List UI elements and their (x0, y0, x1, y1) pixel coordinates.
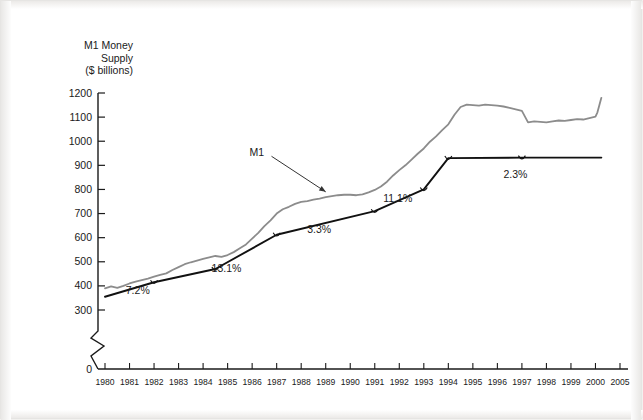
m1-callout-arrow (272, 156, 326, 192)
y-tick-label: 1100 (48, 111, 92, 123)
y-tick-label: 600 (48, 231, 92, 243)
chart-canvas (1, 1, 643, 420)
annotation-growth-rate-3: 3.3% (307, 223, 331, 235)
annotation-growth-rate-1: 7.2% (126, 284, 150, 296)
annotation-growth-rate-5: 2.3% (503, 168, 527, 180)
y-tick-label: 900 (48, 159, 92, 171)
y-tick-label: 1000 (48, 135, 92, 147)
annotation-growth-rate-4: 11.1% (383, 192, 412, 204)
m1-line-series (105, 98, 601, 288)
y-tick-label: 500 (48, 255, 92, 267)
y-tick-label: 700 (48, 207, 92, 219)
annotation-growth-rate-2: 13.1% (212, 262, 242, 274)
x-tick-label: 2005 (605, 377, 635, 387)
axes (91, 93, 628, 369)
y-tick-label: 0 (48, 363, 92, 375)
y-tick-label: 300 (48, 304, 92, 316)
y-tick-label: 400 (48, 279, 92, 291)
tick-marks (98, 93, 620, 369)
y-tick-label: 800 (48, 183, 92, 195)
m1-series-label: M1 (250, 146, 265, 158)
y-tick-label: 1200 (48, 87, 92, 99)
